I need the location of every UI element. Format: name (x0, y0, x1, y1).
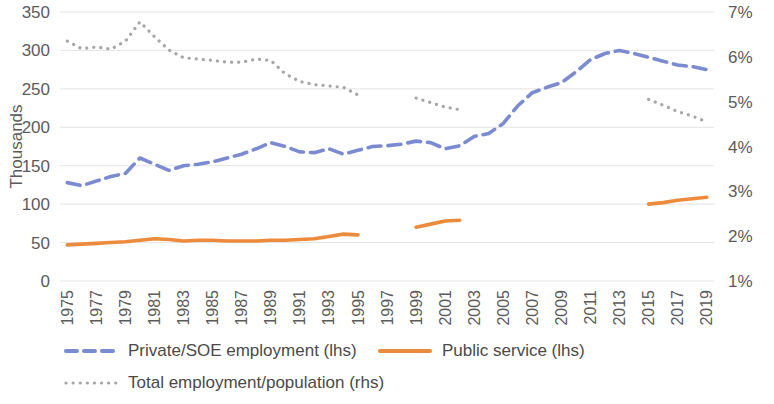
left-axis-tick-label: 0 (41, 272, 50, 291)
x-axis-tick-label: 1989 (262, 290, 279, 326)
x-axis-tick-label: 1995 (350, 290, 367, 326)
chart-container: 050100150200250300350 1%2%3%4%5%6%7% 197… (0, 0, 774, 404)
right-axis-tick-label: 3% (728, 182, 753, 201)
legend-label: Total employment/population (rhs) (128, 373, 384, 392)
right-axis-tick-label: 2% (728, 227, 753, 246)
right-axis-tick-label: 4% (728, 138, 753, 157)
legend-item[interactable]: Public service (lhs) (380, 341, 585, 360)
right-axis-tick-label: 6% (728, 48, 753, 67)
x-axis-tick-label: 2017 (669, 290, 686, 326)
left-axis-tick-label: 300 (22, 41, 50, 60)
x-axis-tick-label: 2005 (495, 290, 512, 326)
x-axis-tick-label: 2001 (437, 290, 454, 326)
left-axis-tick-label: 250 (22, 80, 50, 99)
legend-item[interactable]: Private/SOE employment (lhs) (66, 341, 357, 360)
x-axis-tick-label: 1981 (146, 290, 163, 326)
right-axis-tick-label: 5% (728, 93, 753, 112)
series-line (67, 234, 358, 245)
x-axis-tick-label: 1999 (408, 290, 425, 326)
x-axis-tick-label: 1993 (320, 290, 337, 326)
x-axis-tick-label: 1979 (117, 290, 134, 326)
legend-item[interactable]: Total employment/population (rhs) (66, 373, 384, 392)
x-axis-tick-label: 1977 (88, 290, 105, 326)
x-axis-tick-label: 1991 (291, 290, 308, 326)
employment-line-chart: 050100150200250300350 1%2%3%4%5%6%7% 197… (0, 0, 774, 404)
series-line (67, 22, 358, 95)
left-axis-tick-label: 50 (31, 234, 50, 253)
series-line (649, 99, 707, 121)
x-axis-tick-label: 2013 (611, 290, 628, 326)
x-axis-tick-label: 1987 (233, 290, 250, 326)
right-axis-tick-labels: 1%2%3%4%5%6%7% (728, 3, 753, 291)
x-axis-tick-label: 2003 (466, 290, 483, 326)
legend-label: Private/SOE employment (lhs) (128, 341, 357, 360)
x-axis-tick-label: 2009 (553, 290, 570, 326)
series-line (649, 197, 707, 204)
series-line (416, 220, 460, 227)
x-axis-tick-labels: 1975197719791981198319851987198919911993… (59, 290, 715, 326)
x-axis-tick-label: 1975 (59, 290, 76, 326)
series-line (416, 98, 460, 110)
x-axis-tick-label: 1985 (204, 290, 221, 326)
right-axis-tick-label: 1% (728, 272, 753, 291)
x-axis-tick-label: 2015 (640, 290, 657, 326)
legend-label: Public service (lhs) (442, 341, 585, 360)
left-axis-tick-label: 100 (22, 195, 50, 214)
left-axis-tick-label: 350 (22, 3, 50, 22)
x-axis-tick-label: 1983 (175, 290, 192, 326)
left-axis-title: Thousands (7, 104, 26, 188)
right-axis-tick-label: 7% (728, 3, 753, 22)
x-axis-tick-label: 2019 (698, 290, 715, 326)
chart-legend: Private/SOE employment (lhs)Public servi… (66, 341, 585, 392)
series-lines (67, 22, 706, 245)
x-axis-tick-label: 1997 (379, 290, 396, 326)
x-axis-tick-label: 2011 (582, 290, 599, 325)
x-axis-tick-label: 2007 (524, 290, 541, 326)
